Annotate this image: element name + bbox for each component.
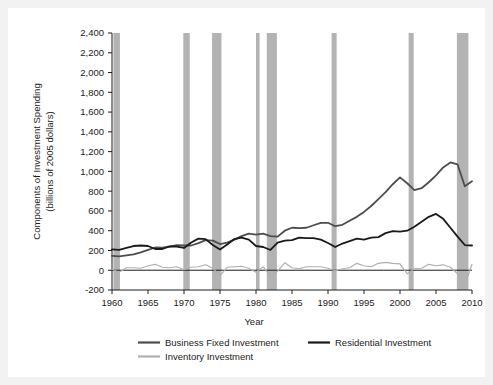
legend-label: Inventory Investment	[165, 351, 254, 362]
x-tick-label: 1985	[281, 297, 302, 308]
series-line	[112, 262, 472, 285]
x-tick-label: 2010	[461, 297, 482, 308]
recession-band	[457, 33, 469, 290]
x-tick-label: 1975	[209, 297, 230, 308]
recession-band	[256, 33, 260, 290]
figure-card: -20002004006008001,0001,2001,4001,6001,8…	[8, 8, 485, 377]
x-tick-label: 1960	[101, 297, 122, 308]
recession-band	[113, 33, 119, 290]
x-tick-label: 1995	[353, 297, 374, 308]
y-tick-label: -200	[85, 284, 104, 295]
y-tick-label: 2,400	[80, 27, 104, 38]
y-tick-label: 600	[88, 205, 104, 216]
y-axis-group: -20002004006008001,0001,2001,4001,6001,8…	[80, 27, 112, 295]
recession-band	[332, 33, 337, 290]
series-line	[112, 162, 472, 256]
series-group	[112, 162, 472, 285]
x-axis-group: 1960196519701975198019851990199520002005…	[101, 270, 482, 308]
recession-bands-group	[113, 33, 468, 290]
y-tick-label: 200	[88, 245, 104, 256]
y-tick-label: 1,000	[80, 166, 104, 177]
y-tick-label: 2,200	[80, 47, 104, 58]
y-axis-title-line1: Components of Investment Spending	[31, 83, 42, 239]
recession-band	[409, 33, 414, 290]
x-tick-label: 1990	[317, 297, 338, 308]
y-tick-label: 800	[88, 186, 104, 197]
legend-label: Residential Investment	[335, 337, 431, 348]
recession-band	[183, 33, 189, 290]
y-tick-label: 1,400	[80, 126, 104, 137]
legend-label: Business Fixed Investment	[165, 337, 279, 348]
y-tick-label: 1,800	[80, 87, 104, 98]
investment-spending-line-chart: -20002004006008001,0001,2001,4001,6001,8…	[8, 8, 485, 377]
x-axis-title: Year	[244, 316, 263, 327]
y-tick-label: 2,000	[80, 67, 104, 78]
y-tick-label: 1,600	[80, 106, 104, 117]
x-tick-label: 1970	[173, 297, 194, 308]
x-tick-label: 1980	[245, 297, 266, 308]
legend: Business Fixed InvestmentResidential Inv…	[138, 337, 431, 362]
y-tick-label: 0	[99, 265, 104, 276]
y-axis-title-line2: (billions of 2005 dollars)	[44, 111, 55, 211]
y-tick-label: 400	[88, 225, 104, 236]
y-tick-label: 1,200	[80, 146, 104, 157]
x-tick-label: 2005	[425, 297, 446, 308]
x-tick-label: 2000	[389, 297, 410, 308]
x-tick-label: 1965	[137, 297, 158, 308]
recession-band	[212, 33, 221, 290]
series-line	[112, 214, 472, 250]
plot-area: -20002004006008001,0001,2001,4001,6001,8…	[80, 27, 482, 308]
recession-band	[267, 33, 277, 290]
